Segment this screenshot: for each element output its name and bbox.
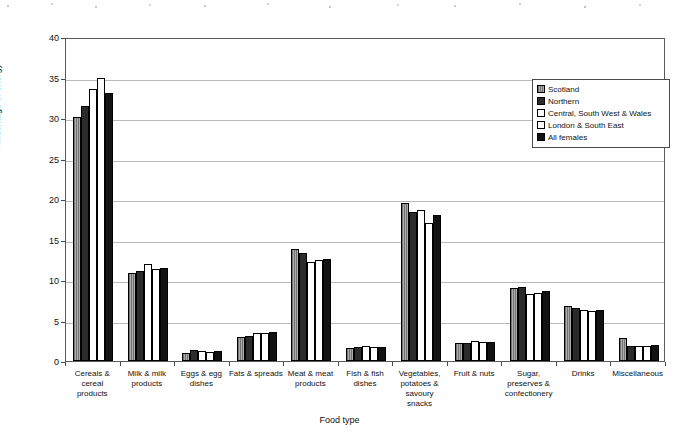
legend-item: Central, South West & Wales bbox=[537, 107, 665, 119]
y-tick-label: 15 bbox=[31, 236, 59, 246]
bar bbox=[463, 343, 471, 361]
bar bbox=[152, 269, 160, 361]
legend-item-label: All females bbox=[548, 133, 587, 142]
bar bbox=[291, 249, 299, 361]
bar bbox=[237, 337, 245, 361]
bar bbox=[534, 293, 542, 361]
bar bbox=[81, 106, 89, 361]
legend-item-label: London & South East bbox=[548, 121, 624, 130]
x-tick-label-line: products bbox=[55, 389, 129, 399]
x-tick-mark bbox=[447, 362, 448, 366]
x-tick-mark bbox=[229, 362, 230, 366]
bar bbox=[190, 350, 198, 361]
legend-swatch-icon bbox=[537, 97, 545, 105]
x-tick-mark bbox=[665, 362, 666, 366]
legend-swatch-icon bbox=[537, 109, 545, 117]
y-tick-label: 10 bbox=[31, 276, 59, 286]
bar bbox=[206, 352, 214, 361]
bar bbox=[307, 262, 315, 361]
bar bbox=[214, 351, 222, 361]
scan-noise-artifact bbox=[0, 0, 679, 14]
bar bbox=[362, 346, 370, 361]
bar bbox=[471, 341, 479, 361]
chart-legend: ScotlandNorthernCentral, South West & Wa… bbox=[532, 79, 670, 148]
y-tick-label: 0 bbox=[31, 357, 59, 367]
y-tick-label: 40 bbox=[31, 33, 59, 43]
y-axis-title: Percentage of energy bbox=[0, 64, 2, 150]
bar bbox=[433, 215, 441, 361]
bar bbox=[409, 212, 417, 361]
x-tick-mark bbox=[392, 362, 393, 366]
bar bbox=[198, 351, 206, 361]
x-tick-label-line: preserves & bbox=[492, 379, 566, 389]
bar bbox=[635, 346, 643, 361]
bar bbox=[128, 273, 136, 361]
x-tick-mark bbox=[120, 362, 121, 366]
bar bbox=[643, 346, 651, 361]
bar bbox=[564, 306, 572, 361]
bar bbox=[572, 308, 580, 361]
x-tick-label: Miscellaneous bbox=[601, 369, 675, 379]
x-axis-tick-group bbox=[65, 362, 665, 367]
x-tick-mark bbox=[283, 362, 284, 366]
bar bbox=[97, 78, 105, 362]
legend-item: Northern bbox=[537, 95, 665, 107]
bar bbox=[455, 343, 463, 361]
y-tick-label: 5 bbox=[31, 317, 59, 327]
bar bbox=[526, 294, 534, 361]
bar bbox=[160, 268, 168, 361]
bar bbox=[245, 336, 253, 361]
y-tick-label: 25 bbox=[31, 155, 59, 165]
x-tick-label-line: dishes bbox=[164, 379, 238, 389]
bar bbox=[346, 348, 354, 361]
x-tick-label-line: potatoes & bbox=[382, 379, 456, 389]
bar bbox=[510, 288, 518, 361]
bar bbox=[73, 117, 81, 361]
bar bbox=[269, 332, 277, 361]
legend-item: Scotland bbox=[537, 83, 665, 95]
x-tick-mark bbox=[338, 362, 339, 366]
bar bbox=[253, 333, 261, 361]
bar bbox=[378, 347, 386, 361]
bar bbox=[136, 271, 144, 361]
x-tick-label-line: Miscellaneous bbox=[601, 369, 675, 379]
legend-swatch-icon bbox=[537, 133, 545, 141]
bar bbox=[518, 287, 526, 361]
bar bbox=[542, 291, 550, 361]
chart-page: Percentage of energy 0510152025303540 Sc… bbox=[0, 0, 679, 440]
legend-item-label: Scotland bbox=[548, 85, 579, 94]
legend-item-label: Central, South West & Wales bbox=[548, 109, 651, 118]
bar bbox=[651, 345, 659, 361]
bar bbox=[588, 311, 596, 361]
x-tick-mark bbox=[174, 362, 175, 366]
bar bbox=[299, 253, 307, 361]
bar bbox=[370, 347, 378, 361]
x-tick-mark bbox=[65, 362, 66, 366]
x-tick-mark bbox=[610, 362, 611, 366]
legend-item-label: Northern bbox=[548, 97, 579, 106]
x-tick-mark bbox=[556, 362, 557, 366]
bar bbox=[479, 342, 487, 361]
bar bbox=[619, 338, 627, 361]
plot-area: ScotlandNorthernCentral, South West & Wa… bbox=[65, 38, 665, 362]
legend-swatch-icon bbox=[537, 121, 545, 129]
legend-item: All females bbox=[537, 131, 665, 143]
bar bbox=[627, 346, 635, 361]
bar bbox=[89, 89, 97, 361]
x-tick-label-line: confectionery bbox=[492, 389, 566, 399]
x-tick-mark bbox=[501, 362, 502, 366]
bar bbox=[580, 310, 588, 361]
bar bbox=[315, 260, 323, 361]
y-tick-label: 30 bbox=[31, 114, 59, 124]
bar bbox=[105, 93, 113, 361]
bar bbox=[425, 223, 433, 361]
y-tick-label: 20 bbox=[31, 195, 59, 205]
bar bbox=[182, 353, 190, 361]
bar bbox=[144, 264, 152, 361]
legend-swatch-icon bbox=[537, 85, 545, 93]
bar bbox=[487, 342, 495, 361]
bar bbox=[354, 347, 362, 361]
y-tick-label: 35 bbox=[31, 74, 59, 84]
bar bbox=[261, 333, 269, 361]
bar bbox=[596, 310, 604, 361]
